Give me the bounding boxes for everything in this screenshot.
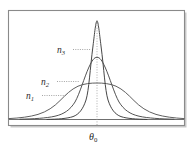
x-axis-tick-label-theta0: θ0	[89, 131, 98, 143]
figure-container: n3 n2 n1 θ0	[0, 0, 194, 148]
sampling-distribution-chart: n3 n2 n1 θ0	[0, 0, 194, 148]
plot-frame	[9, 11, 185, 126]
label-n3-sub: 3	[61, 49, 66, 56]
label-n1-sub: 1	[31, 95, 34, 102]
theta-subscript: 0	[94, 136, 98, 143]
